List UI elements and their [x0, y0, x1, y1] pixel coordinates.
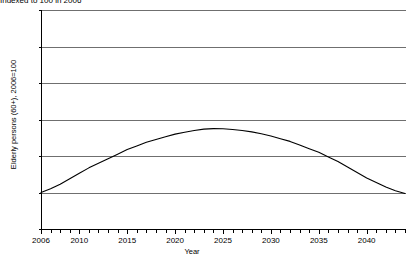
x-tick-mark-2033 [300, 230, 301, 233]
x-tick-label-2025: 2025 [203, 236, 243, 245]
x-tick-mark-2010 [79, 230, 80, 234]
x-tick-mark-2013 [108, 230, 109, 233]
x-tick-mark-2030 [271, 230, 272, 234]
chart-container: Indexed to 100 in 2006 Elderly persons (… [0, 0, 410, 260]
x-tick-mark-2006 [41, 230, 42, 234]
x-tick-mark-2044 [405, 230, 406, 233]
chart-subtitle: Indexed to 100 in 2006 [0, 0, 81, 5]
x-tick-mark-2036 [328, 230, 329, 233]
y-axis-title: Elderly persons (60+), 2006=100 [9, 55, 18, 175]
x-tick-mark-2026 [233, 230, 234, 233]
x-tick-mark-2032 [290, 230, 291, 233]
x-tick-label-2040: 2040 [347, 236, 387, 245]
x-tick-mark-2039 [357, 230, 358, 233]
x-tick-label-2010: 2010 [59, 236, 99, 245]
series-line-elderly-persons [41, 10, 405, 229]
x-tick-mark-2028 [252, 230, 253, 233]
x-tick-mark-2022 [194, 230, 195, 233]
x-tick-mark-2016 [137, 230, 138, 233]
x-tick-mark-2037 [338, 230, 339, 233]
x-tick-mark-2031 [280, 230, 281, 233]
x-tick-mark-2038 [348, 230, 349, 233]
x-tick-mark-2007 [51, 230, 52, 233]
x-tick-mark-2009 [70, 230, 71, 233]
x-tick-mark-2043 [395, 230, 396, 233]
x-tick-mark-2041 [376, 230, 377, 233]
x-tick-label-2015: 2015 [107, 236, 147, 245]
x-tick-mark-2021 [185, 230, 186, 233]
x-tick-mark-2034 [309, 230, 310, 233]
x-axis [41, 229, 405, 230]
x-tick-mark-2019 [166, 230, 167, 233]
x-tick-mark-2012 [98, 230, 99, 233]
x-tick-mark-2040 [367, 230, 368, 234]
x-tick-mark-2027 [242, 230, 243, 233]
x-tick-label-2030: 2030 [251, 236, 291, 245]
x-tick-label-2006: 2006 [21, 236, 61, 245]
x-tick-mark-2017 [146, 230, 147, 233]
x-tick-mark-2035 [319, 230, 320, 234]
x-tick-mark-2042 [386, 230, 387, 233]
x-tick-mark-2025 [223, 230, 224, 234]
x-tick-mark-2020 [175, 230, 176, 234]
x-tick-mark-2029 [261, 230, 262, 233]
x-tick-mark-2018 [156, 230, 157, 233]
x-axis-title-text: Year [184, 247, 199, 256]
x-tick-mark-2008 [60, 230, 61, 233]
x-axis-title: Year [0, 247, 410, 256]
x-tick-label-2020: 2020 [155, 236, 195, 245]
x-tick-mark-2015 [127, 230, 128, 234]
x-tick-mark-2023 [204, 230, 205, 233]
x-tick-mark-2014 [118, 230, 119, 233]
x-tick-mark-2024 [213, 230, 214, 233]
x-tick-mark-2011 [89, 230, 90, 233]
x-tick-label-2035: 2035 [299, 236, 339, 245]
